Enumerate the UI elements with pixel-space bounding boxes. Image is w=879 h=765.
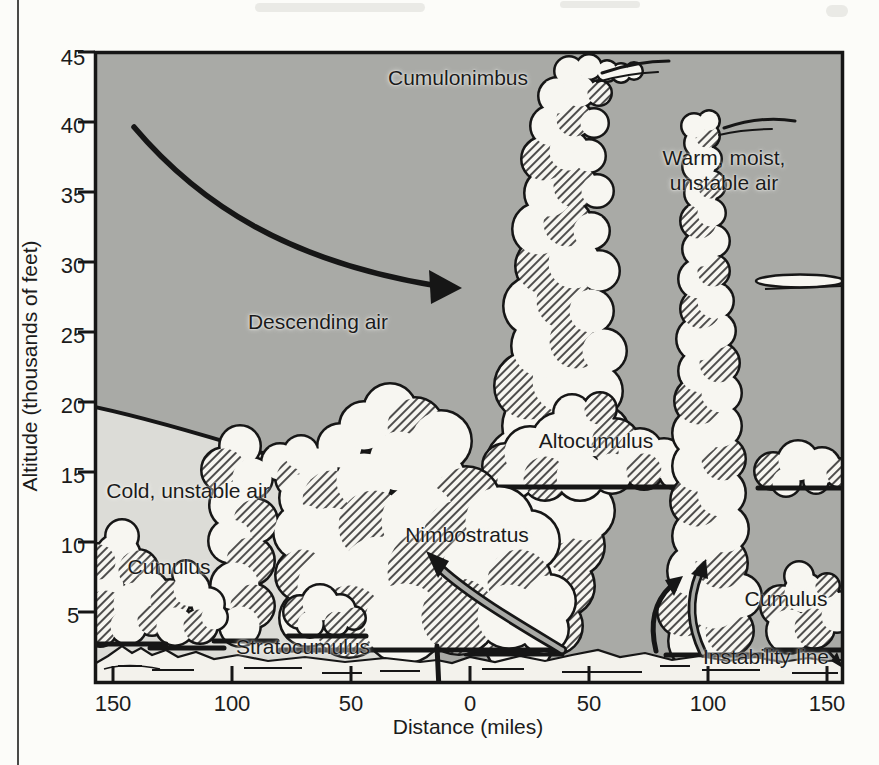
y-tick-25: 25	[61, 323, 85, 349]
x-tick-150e: 150	[809, 691, 846, 717]
label-warm-moist-air: Warm, moist, unstable air	[663, 145, 786, 195]
label-descending-air: Descending air	[248, 309, 388, 334]
label-cold-unstable-air: Cold, unstable air	[106, 478, 269, 503]
y-tick-5: 5	[67, 603, 79, 629]
x-tick-50w: 50	[339, 691, 363, 717]
y-tick-30: 30	[61, 253, 85, 279]
label-cumulonimbus: Cumulonimbus	[388, 65, 528, 90]
figure-page: 45 40 35 30 25 20 15 10 5 150 100 50 0 5…	[0, 0, 879, 765]
x-tick-100e: 100	[690, 691, 727, 717]
y-tick-40: 40	[61, 113, 85, 139]
x-tick-0: 0	[464, 691, 476, 717]
x-axis-title: Distance (miles)	[393, 715, 544, 739]
label-instability-line: Instability line	[703, 644, 829, 669]
y-tick-10: 10	[61, 533, 85, 559]
label-nimbostratus: Nimbostratus	[405, 522, 529, 547]
y-tick-15: 15	[61, 463, 85, 489]
label-stratocumulus: Stratocumulus	[236, 634, 370, 659]
y-tick-35: 35	[61, 183, 85, 209]
x-tick-50e: 50	[577, 691, 601, 717]
y-axis-title: Altitude (thousands of feet)	[18, 196, 42, 536]
y-tick-20: 20	[61, 393, 85, 419]
label-cumulus-left: Cumulus	[128, 554, 211, 579]
y-tick-45: 45	[61, 45, 85, 71]
label-cumulus-right: Cumulus	[745, 586, 828, 611]
label-altocumulus: Altocumulus	[539, 428, 653, 453]
x-tick-150w: 150	[95, 691, 132, 717]
x-tick-100w: 100	[214, 691, 251, 717]
